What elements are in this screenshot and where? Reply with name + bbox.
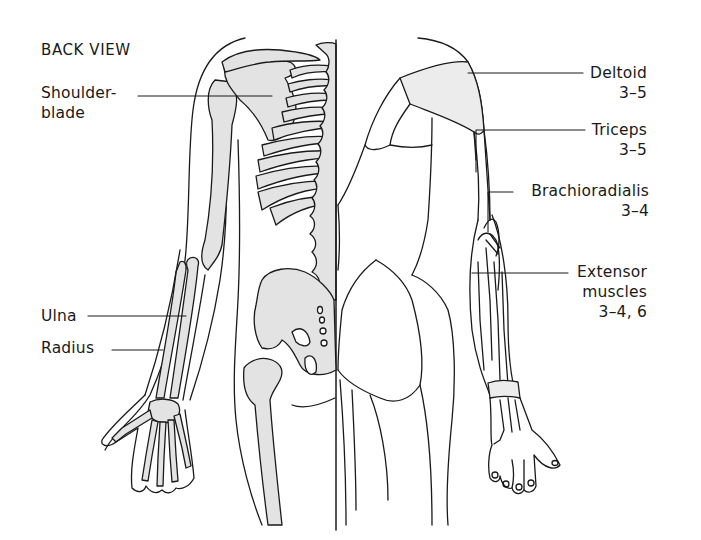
label-shoulder-blade-line1: Shoulder-	[41, 83, 116, 103]
label-triceps: Triceps 3–5	[592, 120, 647, 160]
label-ulna: Ulna	[41, 306, 77, 326]
skeleton-hand	[112, 399, 191, 486]
label-shoulder-blade: Shoulder- blade	[41, 83, 116, 123]
view-title: BACK VIEW	[41, 40, 131, 60]
skeleton-half	[102, 38, 336, 530]
label-radius: Radius	[41, 338, 94, 358]
label-extensor-value: 3–4, 6	[577, 302, 647, 322]
muscle-forearm	[470, 215, 516, 395]
label-deltoid-name: Deltoid	[590, 63, 647, 83]
muscle-half	[338, 38, 560, 525]
label-extensor-muscles: Extensor muscles 3–4, 6	[577, 262, 647, 322]
label-deltoid-value: 3–5	[590, 83, 647, 103]
label-brachioradialis-value: 3–4	[531, 201, 649, 221]
label-shoulder-blade-line2: blade	[41, 103, 116, 123]
label-extensor-name2: muscles	[577, 282, 647, 302]
label-brachioradialis-name: Brachioradialis	[531, 181, 649, 201]
label-deltoid: Deltoid 3–5	[590, 63, 647, 103]
label-triceps-value: 3–5	[592, 140, 647, 160]
label-triceps-name: Triceps	[592, 120, 647, 140]
anatomy-figure: BACK VIEW Shoulder- blade Ulna Radius De…	[0, 0, 701, 540]
label-brachioradialis: Brachioradialis 3–4	[531, 181, 649, 221]
label-extensor-name: Extensor	[577, 262, 647, 282]
